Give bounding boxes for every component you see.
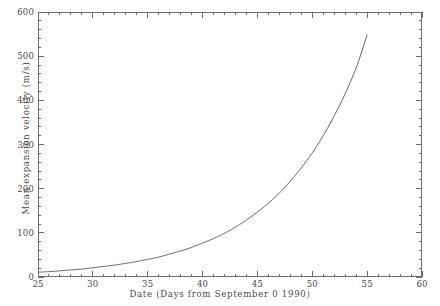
data-curve bbox=[38, 12, 422, 277]
x-tick-label: 60 bbox=[402, 279, 440, 289]
y-tick-label: 600 bbox=[0, 7, 34, 17]
x-axis-title: Date (Days from September 0 1990) bbox=[0, 289, 440, 299]
x-tick-label: 50 bbox=[292, 279, 332, 289]
x-tick-label: 30 bbox=[73, 279, 113, 289]
x-tick-label: 35 bbox=[128, 279, 168, 289]
y-tick-label: 0 bbox=[0, 272, 34, 282]
x-tick-label: 55 bbox=[347, 279, 387, 289]
x-tick-label: 45 bbox=[237, 279, 277, 289]
y-axis-title: Mean expansion velocity (m/s) bbox=[21, 28, 31, 248]
x-tick-label: 40 bbox=[183, 279, 223, 289]
chart-figure: Expansion of the Wilber Great White Spot… bbox=[0, 0, 440, 306]
